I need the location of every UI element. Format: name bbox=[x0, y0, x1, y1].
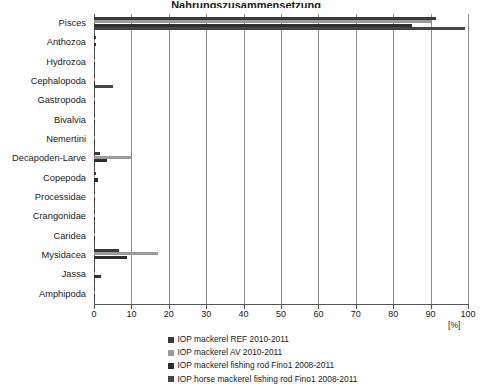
y-axis-label-hydrozoa: Hydrozoa bbox=[46, 58, 86, 67]
y-axis-labels: PiscesAnthozoaHydrozoaCephalopodaGastrop… bbox=[0, 14, 90, 304]
y-axis-label-decapoden-larve: Decapoden-Larve bbox=[12, 154, 86, 163]
bars bbox=[94, 91, 468, 110]
y-axis-label-processidae: Processidae bbox=[35, 193, 86, 202]
legend-swatch-icon bbox=[168, 337, 174, 343]
chart-legend: IOP mackerel REF 2010-2011IOP mackerel A… bbox=[168, 333, 357, 386]
y-axis-label-mysidacea: Mysidacea bbox=[42, 251, 86, 260]
x-tick-label-60: 60 bbox=[303, 310, 333, 319]
bar bbox=[94, 182, 95, 185]
bar-chart: Nahrungszusammensetzung PiscesAnthozoaHy… bbox=[0, 0, 492, 388]
bar-group-copepoda bbox=[94, 169, 468, 188]
x-tick-label-10: 10 bbox=[116, 310, 146, 319]
legend-item[interactable]: IOP mackerel fishing rod Fino1 2008-2011 bbox=[168, 359, 357, 372]
bar bbox=[94, 163, 95, 166]
bar bbox=[94, 85, 113, 88]
legend-swatch-icon bbox=[168, 350, 174, 356]
bars bbox=[94, 14, 468, 33]
bar bbox=[94, 259, 95, 262]
bar-group-caridea bbox=[94, 227, 468, 246]
bars bbox=[94, 169, 468, 188]
x-tick-label-70: 70 bbox=[341, 310, 371, 319]
bar-group-pisces bbox=[94, 14, 468, 33]
bar bbox=[94, 240, 95, 243]
legend-label: IOP horse mackerel fishing rod Fino1 200… bbox=[178, 373, 358, 386]
bar bbox=[94, 143, 95, 146]
bar-group-mysidacea bbox=[94, 246, 468, 265]
bar bbox=[94, 159, 107, 162]
bar-group-gastropoda bbox=[94, 91, 468, 110]
legend-label: IOP mackerel REF 2010-2011 bbox=[178, 333, 289, 346]
bar-group-jassa bbox=[94, 265, 468, 284]
legend-item[interactable]: IOP mackerel REF 2010-2011 bbox=[168, 333, 357, 346]
x-tick-label-30: 30 bbox=[191, 310, 221, 319]
y-axis-label-jassa: Jassa bbox=[62, 270, 86, 279]
y-axis-label-bivalvia: Bivalvia bbox=[54, 116, 86, 125]
bars bbox=[94, 33, 468, 52]
bar-group-processidae bbox=[94, 188, 468, 207]
bars bbox=[94, 53, 468, 72]
y-axis-label-gastropoda: Gastropoda bbox=[37, 96, 86, 105]
bars bbox=[94, 246, 468, 265]
y-axis-label-pisces: Pisces bbox=[59, 19, 86, 28]
bars bbox=[94, 72, 468, 91]
x-tick-label-40: 40 bbox=[229, 310, 259, 319]
bar bbox=[94, 256, 127, 259]
legend-item[interactable]: IOP mackerel AV 2010-2011 bbox=[168, 346, 357, 359]
bars bbox=[94, 265, 468, 284]
x-tick-label-100: 100 bbox=[453, 310, 483, 319]
y-axis-label-amphipoda: Amphipoda bbox=[39, 290, 86, 299]
bar-group-bivalvia bbox=[94, 111, 468, 130]
bar-group-anthozoa bbox=[94, 33, 468, 52]
plot-area bbox=[94, 14, 468, 304]
bar-group-amphipoda bbox=[94, 285, 468, 304]
gridline-100 bbox=[468, 14, 469, 304]
bar bbox=[94, 221, 95, 224]
x-tick-label-80: 80 bbox=[378, 310, 408, 319]
bar-group-cephalopoda bbox=[94, 72, 468, 91]
chart-title-clipped: Nahrungszusammensetzung bbox=[0, 0, 492, 8]
bar-group-crangonidae bbox=[94, 207, 468, 226]
bar bbox=[94, 27, 465, 30]
legend-label: IOP mackerel AV 2010-2011 bbox=[178, 346, 283, 359]
bar bbox=[94, 279, 95, 282]
legend-swatch-icon bbox=[168, 363, 174, 369]
bar bbox=[94, 105, 95, 108]
y-axis-label-cephalopoda: Cephalopoda bbox=[31, 77, 86, 86]
bars bbox=[94, 285, 468, 304]
legend-item[interactable]: IOP horse mackerel fishing rod Fino1 200… bbox=[168, 373, 357, 386]
bar bbox=[94, 66, 95, 69]
bars bbox=[94, 227, 468, 246]
bars bbox=[94, 130, 468, 149]
x-axis-unit-label: [%] bbox=[448, 321, 460, 330]
bars bbox=[94, 207, 468, 226]
bars bbox=[94, 111, 468, 130]
legend-swatch-icon bbox=[168, 376, 174, 382]
y-axis-label-caridea: Caridea bbox=[53, 232, 86, 241]
bars bbox=[94, 188, 468, 207]
x-tick-label-0: 0 bbox=[79, 310, 109, 319]
y-axis-label-copepoda: Copepoda bbox=[43, 174, 86, 183]
y-axis-label-nemertini: Nemertini bbox=[46, 135, 86, 144]
x-tick-label-50: 50 bbox=[266, 310, 296, 319]
x-tick-label-20: 20 bbox=[154, 310, 184, 319]
bar-group-hydrozoa bbox=[94, 53, 468, 72]
x-tick-label-90: 90 bbox=[416, 310, 446, 319]
bar bbox=[94, 201, 95, 204]
bar-group-decapoden-larve bbox=[94, 149, 468, 168]
bar bbox=[94, 47, 95, 50]
bar-rows bbox=[94, 14, 468, 304]
bars bbox=[94, 149, 468, 168]
chart-title-text: Nahrungszusammensetzung bbox=[171, 0, 321, 8]
legend-label: IOP mackerel fishing rod Fino1 2008-2011 bbox=[178, 359, 335, 372]
y-axis-label-crangonidae: Crangonidae bbox=[33, 212, 86, 221]
y-axis-label-anthozoa: Anthozoa bbox=[47, 38, 86, 47]
bar-group-nemertini bbox=[94, 130, 468, 149]
bar bbox=[94, 124, 95, 127]
bar bbox=[94, 298, 95, 301]
